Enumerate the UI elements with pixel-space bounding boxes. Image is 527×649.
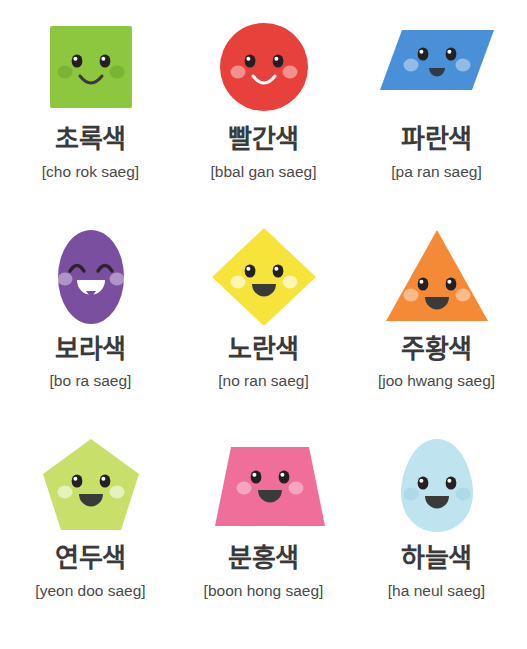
korean-label: 분홍색 bbox=[228, 545, 299, 573]
eye-right bbox=[99, 54, 110, 67]
korean-label: 하늘색 bbox=[401, 545, 472, 573]
romanization-label: [yeon doo saeg] bbox=[35, 582, 145, 599]
cheek-right bbox=[455, 288, 470, 301]
eye-left bbox=[250, 471, 261, 484]
eye-left-highlight bbox=[246, 266, 250, 270]
flashcard-no-ran-saeg[interactable]: 노란색[no ran saeg] bbox=[177, 224, 350, 434]
shape-illustration-pentagon bbox=[26, 433, 156, 541]
shape-diamond-svg bbox=[199, 224, 329, 332]
shape-square-svg bbox=[26, 14, 156, 122]
shape-circle-svg bbox=[199, 14, 329, 122]
flashcard-sheet: 초록색[cho rok saeg]빨간색[bbal gan saeg]파란색[p… bbox=[0, 0, 527, 649]
romanization-label: [bbal gan saeg] bbox=[210, 163, 316, 180]
cheek-left bbox=[236, 482, 251, 495]
shape-parallelogram-svg bbox=[372, 14, 502, 122]
shape-ellipse-svg bbox=[26, 224, 156, 332]
eye-right bbox=[445, 277, 456, 290]
eye-left bbox=[417, 477, 428, 490]
cheek-left bbox=[403, 288, 418, 301]
cheek-right bbox=[109, 486, 124, 499]
romanization-label: [no ran saeg] bbox=[218, 372, 308, 389]
shape-pentagon bbox=[43, 439, 139, 530]
flashcard-bbal-gan-saeg[interactable]: 빨간색[bbal gan saeg] bbox=[177, 14, 350, 224]
eye-right-highlight bbox=[447, 50, 451, 54]
shape-illustration-square bbox=[26, 14, 156, 122]
eye-left bbox=[244, 264, 255, 277]
eye-right-highlight bbox=[274, 57, 278, 61]
shape-egg-svg bbox=[372, 433, 502, 541]
eye-right bbox=[278, 471, 289, 484]
romanization-label: [cho rok saeg] bbox=[42, 163, 139, 180]
cheek-left bbox=[403, 488, 418, 501]
korean-label: 초록색 bbox=[55, 126, 126, 154]
eye-left-highlight bbox=[246, 57, 250, 61]
eye-left bbox=[417, 277, 428, 290]
shape-pentagon-svg bbox=[26, 433, 156, 541]
flashcard-yeon-doo-saeg[interactable]: 연두색[yeon doo saeg] bbox=[4, 433, 177, 643]
eye-right-highlight bbox=[101, 477, 105, 481]
eye-left bbox=[71, 54, 82, 67]
eye-right bbox=[272, 264, 283, 277]
eye-left-highlight bbox=[252, 473, 256, 477]
cheek-right bbox=[455, 488, 470, 501]
eye-right-highlight bbox=[447, 279, 451, 283]
flashcard-pa-ran-saeg[interactable]: 파란색[pa ran saeg] bbox=[350, 14, 523, 224]
korean-label: 빨간색 bbox=[228, 126, 299, 154]
eye-left bbox=[417, 47, 428, 60]
romanization-label: [joo hwang saeg] bbox=[378, 372, 495, 389]
eye-left-highlight bbox=[419, 279, 423, 283]
eye-left-highlight bbox=[419, 50, 423, 54]
korean-label: 보라색 bbox=[55, 336, 126, 364]
eye-left-highlight bbox=[73, 57, 77, 61]
cheek-right bbox=[109, 272, 124, 285]
cheek-left bbox=[230, 275, 245, 288]
eye-right bbox=[445, 477, 456, 490]
cheek-left bbox=[57, 486, 72, 499]
romanization-label: [ha neul saeg] bbox=[388, 582, 485, 599]
shape-illustration-diamond bbox=[199, 224, 329, 332]
cheek-left bbox=[57, 66, 72, 79]
shape-triangle-svg bbox=[372, 224, 502, 332]
shape-trapezoid bbox=[215, 447, 325, 526]
shape-parallelogram bbox=[380, 30, 494, 90]
shape-diamond bbox=[212, 228, 316, 326]
eye-right-highlight bbox=[101, 57, 105, 61]
cheek-right bbox=[109, 66, 124, 79]
eye-right bbox=[445, 47, 456, 60]
shape-trapezoid-svg bbox=[199, 433, 329, 541]
flashcard-cho-rok-saeg[interactable]: 초록색[cho rok saeg] bbox=[4, 14, 177, 224]
shape-illustration-ellipse bbox=[26, 224, 156, 332]
cheek-right bbox=[288, 482, 303, 495]
cheek-left bbox=[403, 59, 418, 72]
flashcard-bo-ra-saeg[interactable]: 보라색[bo ra saeg] bbox=[4, 224, 177, 434]
eye-left-highlight bbox=[419, 479, 423, 483]
romanization-label: [pa ran saeg] bbox=[391, 163, 481, 180]
flashcard-joo-hwang-saeg[interactable]: 주황색[joo hwang saeg] bbox=[350, 224, 523, 434]
eye-left-highlight bbox=[73, 477, 77, 481]
eye-left bbox=[244, 54, 255, 67]
eye-right-highlight bbox=[274, 266, 278, 270]
shape-illustration-circle bbox=[199, 14, 329, 122]
korean-label: 주황색 bbox=[401, 336, 472, 364]
flashcard-ha-neul-saeg[interactable]: 하늘색[ha neul saeg] bbox=[350, 433, 523, 643]
shape-circle bbox=[220, 23, 308, 111]
cheek-right bbox=[282, 275, 297, 288]
shape-illustration-triangle bbox=[372, 224, 502, 332]
eye-right bbox=[272, 54, 283, 67]
cheek-left bbox=[57, 272, 72, 285]
romanization-label: [bo ra saeg] bbox=[50, 372, 132, 389]
eye-right-highlight bbox=[447, 479, 451, 483]
romanization-label: [boon hong saeg] bbox=[204, 582, 324, 599]
cheek-right bbox=[455, 59, 470, 72]
korean-label: 연두색 bbox=[55, 545, 126, 573]
shape-illustration-trapezoid bbox=[199, 433, 329, 541]
shape-illustration-egg bbox=[372, 433, 502, 541]
korean-label: 노란색 bbox=[228, 336, 299, 364]
eye-right-highlight bbox=[280, 473, 284, 477]
cheek-left bbox=[230, 66, 245, 79]
eye-left bbox=[71, 475, 82, 488]
cheek-right bbox=[282, 66, 297, 79]
shape-illustration-parallelogram bbox=[372, 14, 502, 122]
flashcard-boon-hong-saeg[interactable]: 분홍색[boon hong saeg] bbox=[177, 433, 350, 643]
shape-egg bbox=[401, 439, 473, 532]
